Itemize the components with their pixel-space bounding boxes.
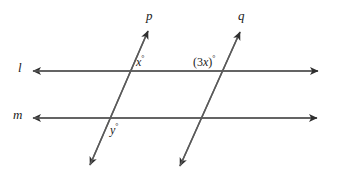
angle-x-degree-symbol: ° [141,54,144,63]
angle-3x-degree-symbol: ° [212,54,215,63]
line-p [90,31,148,165]
line-q [180,32,240,166]
angle-label-3x: (3x)° [193,55,216,68]
line-label-l: l [18,61,22,74]
angle-label-y: y° [110,123,119,136]
diagram-canvas [0,0,337,177]
angle-y-degree-symbol: ° [115,122,118,131]
line-q-upper-arrow-segment [180,32,240,166]
line-label-p: p [146,9,153,22]
line-label-m: m [13,108,22,121]
angle-label-x: x° [136,55,145,68]
line-label-q: q [238,9,245,22]
geometry-figure: l m p q x° (3x)° y° [0,0,337,177]
line-p-upper-arrow-segment [90,31,148,165]
